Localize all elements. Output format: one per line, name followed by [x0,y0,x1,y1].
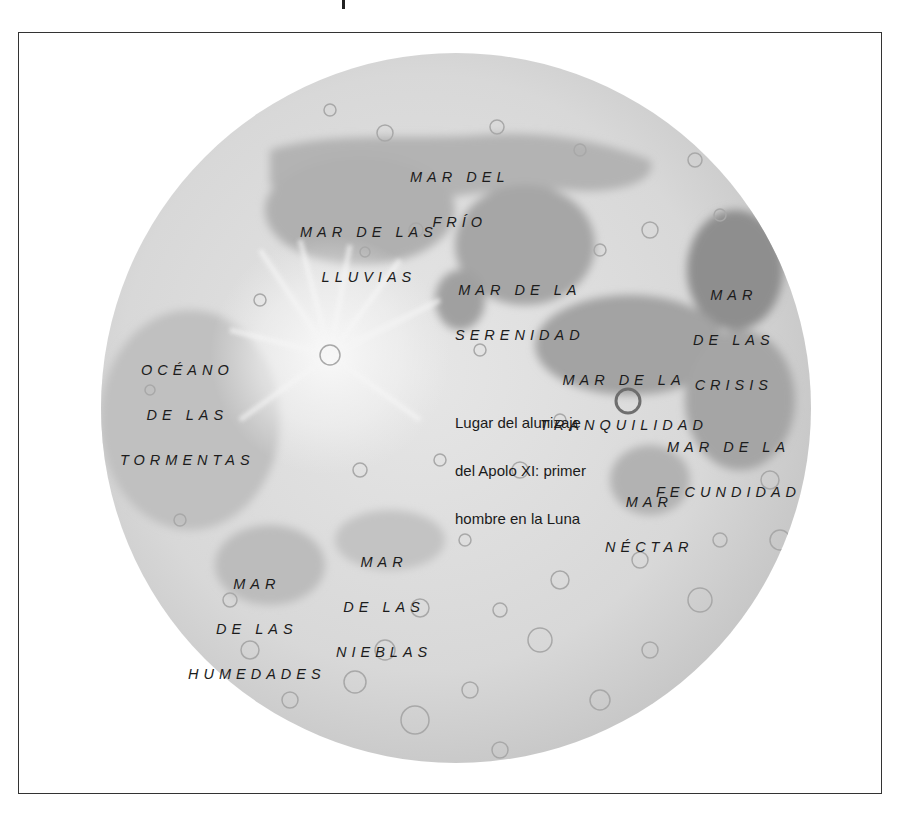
label-line: LLUVIAS [300,270,438,285]
label-line: OCÉANO [120,363,255,378]
label-line: MAR [336,555,432,570]
label-line: MAR [693,288,775,303]
label-line: MAR DE LA [455,283,585,298]
label-line: MAR [188,577,326,592]
annotation-line: del Apolo XI: primer [455,463,586,479]
label-mar-nieblas: MAR DE LAS NIEBLAS [336,525,432,675]
label-line: MAR DE LA [656,440,801,455]
label-line: TORMENTAS [120,453,255,468]
label-line: HUMEDADES [188,667,326,682]
label-line: MAR [605,495,694,510]
label-oceano-tormentas: OCÉANO DE LAS TORMENTAS [120,333,255,483]
annotation-line: hombre en la Luna [455,511,586,527]
label-line: DE LAS [120,408,255,423]
label-line: NÉCTAR [605,540,694,555]
label-line: MAR DE LAS [300,225,438,240]
label-mar-nectar: MAR NÉCTAR [605,465,694,570]
annotation-line: Lugar del alunizaje [455,415,586,431]
label-line: DE LAS [188,622,326,637]
label-mar-lluvias: MAR DE LAS LLUVIAS [300,195,438,300]
label-mar-humedades: MAR DE LAS HUMEDADES [188,547,326,697]
label-line: DE LAS [336,600,432,615]
label-line: NIEBLAS [336,645,432,660]
label-line: SERENIDAD [455,328,585,343]
landing-site-annotation: Lugar del alunizaje del Apolo XI: primer… [455,383,586,543]
label-line: MAR DEL [410,170,509,185]
